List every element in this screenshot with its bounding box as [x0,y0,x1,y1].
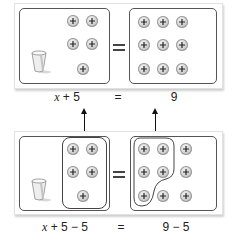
plus-counter-icon [67,166,79,178]
plus-counter-icon [157,190,169,202]
cup-icon [30,50,52,74]
plus-counter-icon [157,63,169,75]
plus-counter-icon [77,190,89,202]
plus-counter-icon [67,38,79,50]
plus-counter-icon [180,190,192,202]
plus-counter-icon [138,63,150,75]
top-equation-equals: = [114,90,121,104]
plus-counter-icon [86,143,98,155]
plus-counter-icon [67,143,79,155]
equals-sign [113,171,125,179]
plus-counter-icon [157,16,169,28]
plus-counter-icon [176,39,188,51]
plus-counter-icon [157,166,169,178]
plus-counter-icon [77,63,89,75]
plus-counter-icon [176,16,188,28]
plus-counter-icon [138,16,150,28]
bottom-equation-right: 9 − 5 [162,220,189,234]
plus-counter-icon [138,39,150,51]
plus-counter-icon [176,63,188,75]
plus-counter-icon [180,166,192,178]
bottom-equation-equals: = [117,220,124,234]
plus-counter-icon [86,166,98,178]
left-expression-rest: + 5 [59,90,79,104]
plus-counter-icon [180,143,192,155]
plus-counter-icon [138,143,150,155]
top-equation-left: x + 5 [54,90,80,105]
plus-counter-icon [86,38,98,50]
plus-counter-icon [138,190,150,202]
plus-counter-icon [157,143,169,155]
plus-counter-icon [138,166,150,178]
equals-sign [113,44,125,52]
cup-icon [30,178,52,202]
bottom-equation-left: x + 5 − 5 [42,220,88,235]
left-expression-rest: + 5 − 5 [47,220,88,234]
plus-counter-icon [157,39,169,51]
top-equation-right: 9 [171,90,178,104]
plus-counter-icon [86,15,98,27]
plus-counter-icon [67,15,79,27]
